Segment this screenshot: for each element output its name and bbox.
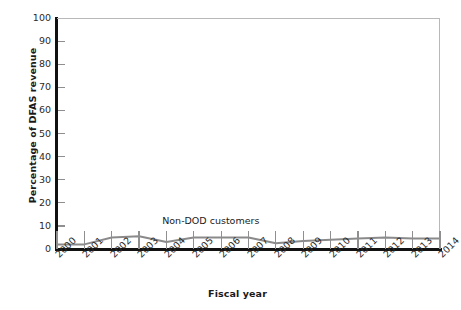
y-axis-tick-label: 20	[0, 198, 51, 208]
series-label-non-dod-customers: Non-DOD customers	[162, 215, 259, 226]
y-axis-tick-label: 0	[0, 244, 51, 254]
y-axis-tick-label: 70	[0, 82, 51, 92]
y-axis-tick-label: 100	[0, 13, 51, 23]
y-axis-tick-label: 40	[0, 152, 51, 162]
plot-border-right	[439, 18, 440, 249]
x-axis-title: Fiscal year	[0, 288, 455, 299]
y-axis-tick-label: 90	[0, 36, 51, 46]
y-axis-tick-label: 50	[0, 129, 51, 139]
plot-border-top	[57, 18, 440, 19]
x-axis-title-text: Fiscal year	[208, 288, 267, 299]
y-axis-tick-label: 30	[0, 175, 51, 185]
y-axis-tick-label: 60	[0, 105, 51, 115]
y-axis-tick-label: 80	[0, 59, 51, 69]
y-axis-tick-label: 10	[0, 221, 51, 231]
